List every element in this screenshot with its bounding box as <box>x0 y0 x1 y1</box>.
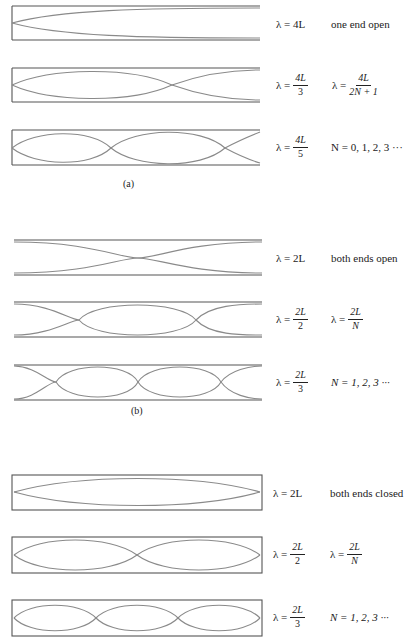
numerator: 4L <box>293 135 308 148</box>
eq-c3: λ = 2L 3 <box>273 605 305 629</box>
denominator: 5 <box>298 148 303 160</box>
denominator: N <box>351 555 358 567</box>
eq-a3: λ = 4L 5 <box>276 135 308 159</box>
general-formula-a: λ = 4L 2N + 1 <box>332 73 378 97</box>
eq-b3: λ = 2L 3 <box>276 370 308 394</box>
tube-a1 <box>12 6 260 40</box>
denominator: 3 <box>298 86 303 98</box>
panel-b <box>14 240 262 400</box>
tube-a3 <box>12 130 260 165</box>
numerator: 2L <box>290 605 305 618</box>
general-formula-b: λ = 2L N <box>331 307 363 331</box>
general-formula-c: λ = 2L N <box>330 542 362 566</box>
fraction: 2L 2 <box>293 307 308 331</box>
numerator: 2L <box>290 542 305 555</box>
tube-a2 <box>12 68 260 102</box>
fraction: 2L 3 <box>293 370 308 394</box>
fraction: 2L N <box>347 542 362 566</box>
fraction: 2L N <box>348 307 363 331</box>
fraction: 2L 2 <box>290 542 305 566</box>
n-range-a: N = 0, 1, 2, 3 ··· <box>331 142 403 153</box>
fraction: 2L 3 <box>290 605 305 629</box>
eq-a1-text: λ = 4L <box>276 18 305 30</box>
numerator: 2L <box>293 307 308 320</box>
eq-a2: λ = 4L 3 <box>276 73 308 97</box>
note-both-ends-open: both ends open <box>331 253 398 264</box>
denominator: 2N + 1 <box>349 86 377 98</box>
numerator: 4L <box>293 73 308 86</box>
tube-c1 <box>12 475 262 510</box>
denominator: 3 <box>295 618 300 630</box>
note-both-ends-closed: both ends closed <box>330 488 403 499</box>
fraction: 4L 2N + 1 <box>349 73 377 97</box>
n-range-b: N = 1, 2, 3 ··· <box>331 377 390 388</box>
tube-b2 <box>14 302 262 337</box>
eq-a1: λ = 4L <box>276 18 305 30</box>
panel-c <box>12 475 262 636</box>
lambda-prefix: λ = <box>276 79 290 91</box>
tube-b3 <box>14 365 262 400</box>
n-range-c: N = 1, 2, 3 ··· <box>330 612 389 623</box>
eq-b1: λ = 2L <box>276 252 305 264</box>
lambda-prefix: λ = <box>273 548 287 560</box>
tube-c2 <box>12 537 262 573</box>
lambda-prefix: λ = <box>276 313 290 325</box>
eq-c2: λ = 2L 2 <box>273 542 305 566</box>
eq-b2: λ = 2L 2 <box>276 307 308 331</box>
tube-c3 <box>12 600 262 636</box>
tube-b1 <box>14 240 262 275</box>
panel-a <box>12 6 260 165</box>
denominator: 2 <box>298 320 303 332</box>
numerator: 2L <box>347 542 362 555</box>
caption-a: (a) <box>123 178 134 189</box>
eq-c1-text: λ = 2L <box>273 487 302 499</box>
denominator: N <box>352 320 359 332</box>
numerator: 4L <box>356 73 371 86</box>
numerator: 2L <box>348 307 363 320</box>
denominator: 3 <box>298 383 303 395</box>
caption-b: (b) <box>131 405 143 416</box>
lambda-prefix: λ = <box>276 141 290 153</box>
lambda-prefix: λ = <box>273 611 287 623</box>
fraction: 4L 5 <box>293 135 308 159</box>
lambda-prefix: λ = <box>331 313 345 325</box>
lambda-prefix: λ = <box>330 548 344 560</box>
numerator: 2L <box>293 370 308 383</box>
eq-b1-text: λ = 2L <box>276 252 305 264</box>
note-one-end-open: one end open <box>331 19 390 30</box>
lambda-prefix: λ = <box>332 79 346 91</box>
lambda-prefix: λ = <box>276 376 290 388</box>
fraction: 4L 3 <box>293 73 308 97</box>
eq-c1: λ = 2L <box>273 487 302 499</box>
denominator: 2 <box>295 555 300 567</box>
